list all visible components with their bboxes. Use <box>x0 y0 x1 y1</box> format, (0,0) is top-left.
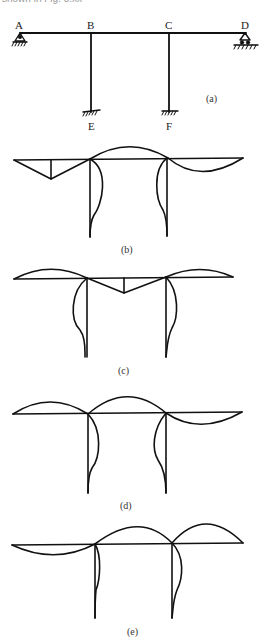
caption-b: (b) <box>121 244 133 256</box>
moment-diagram-e <box>12 524 243 618</box>
caption-d: (d) <box>120 500 132 512</box>
caption-c: (c) <box>118 365 129 377</box>
frame-diagrams: A B C D E F (a) (b) (c) (d) (e) <box>0 0 265 642</box>
roller-support-icon <box>234 33 258 49</box>
caption-e: (e) <box>127 626 138 638</box>
caption-a: (a) <box>206 93 217 105</box>
joint-label-f: F <box>166 120 172 132</box>
moment-diagram-d <box>13 397 242 493</box>
pin-support-icon <box>12 33 27 46</box>
joint-label-d: D <box>241 19 249 31</box>
moment-diagram-c <box>14 269 233 357</box>
fixed-support-icon <box>83 110 100 116</box>
joint-label-e: E <box>88 120 95 132</box>
joint-label-a: A <box>15 19 23 31</box>
joint-label-c: C <box>165 19 172 31</box>
frame-structure-a <box>12 33 258 116</box>
fixed-support-icon <box>162 111 178 115</box>
joint-label-b: B <box>87 19 94 31</box>
moment-diagram-b <box>14 147 243 237</box>
